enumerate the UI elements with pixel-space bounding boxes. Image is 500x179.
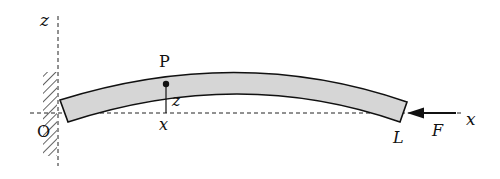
end-length-label: L [392,128,404,147]
point-p-marker [163,81,169,87]
point-z-label: z [171,91,181,110]
beam [60,72,407,122]
point-x-label: x [159,115,168,134]
point-p-label: P [159,52,170,71]
force-arrow [407,108,456,119]
force-label: F [431,121,444,140]
origin-label: O [37,122,50,141]
z-axis-label: z [39,10,50,30]
fixed-wall [43,72,57,156]
beam-diagram: z O P z x L F x [0,0,500,179]
x-axis-label: x [466,109,476,129]
